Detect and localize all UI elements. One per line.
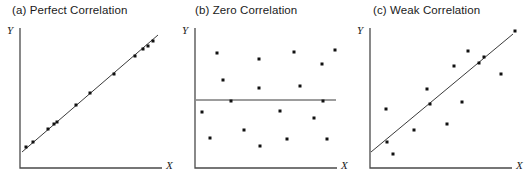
panel-c-trend-line bbox=[371, 34, 513, 152]
correlation-figure: (a) Perfect Correlation Y X bbox=[0, 0, 529, 185]
panel-c-data-points bbox=[385, 30, 517, 156]
panel-c-plot-area bbox=[0, 0, 529, 185]
panel-c-axes bbox=[370, 28, 512, 168]
